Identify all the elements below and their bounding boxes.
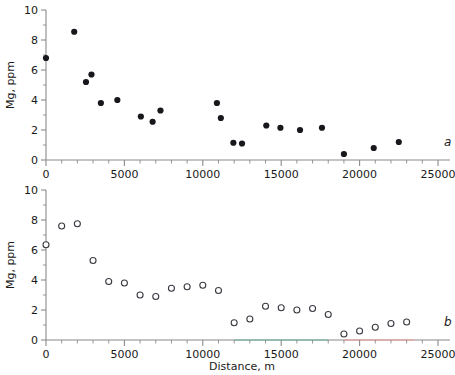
- data-point: [294, 307, 300, 313]
- data-point: [372, 324, 378, 330]
- data-point: [43, 242, 49, 248]
- figure-root: 02468100500010000150002000025000Mg, ppma…: [0, 0, 455, 375]
- panel-label-a: a: [444, 135, 451, 149]
- x-tick-label-b-0: 0: [43, 348, 50, 361]
- data-point: [404, 319, 410, 325]
- data-point: [153, 294, 159, 300]
- data-point: [297, 127, 303, 133]
- data-point: [357, 328, 363, 334]
- y-tick-label-a-10: 10: [24, 4, 38, 17]
- data-point: [168, 285, 174, 291]
- y-tick-label-a-4: 4: [31, 94, 38, 107]
- data-point: [371, 145, 377, 151]
- data-point: [277, 125, 283, 131]
- x-tick-label-b-5000: 5000: [110, 348, 138, 361]
- data-point: [215, 288, 221, 294]
- data-point: [396, 139, 402, 145]
- data-point: [74, 221, 80, 227]
- scatter-plot-figure: 02468100500010000150002000025000Mg, ppma…: [0, 0, 455, 375]
- x-tick-label-a-20000: 20000: [342, 168, 377, 181]
- data-point: [388, 321, 394, 327]
- panel-b: 02468100500010000150002000025000Mg, ppmb: [4, 184, 455, 361]
- x-tick-label-a-5000: 5000: [110, 168, 138, 181]
- data-point: [247, 316, 253, 322]
- y-tick-label-b-10: 10: [24, 184, 38, 197]
- data-point: [114, 97, 120, 103]
- data-point: [138, 113, 144, 119]
- data-point: [184, 284, 190, 290]
- x-tick-label-b-20000: 20000: [342, 348, 377, 361]
- data-point: [239, 140, 245, 146]
- y-tick-label-b-6: 6: [31, 244, 38, 257]
- x-tick-label-b-25000: 25000: [421, 348, 455, 361]
- x-tick-label-a-15000: 15000: [264, 168, 299, 181]
- x-axis-title: Distance, m: [209, 360, 275, 373]
- panel-a: 02468100500010000150002000025000Mg, ppma: [4, 4, 455, 181]
- data-point: [231, 320, 237, 326]
- x-tick-label-a-10000: 10000: [185, 168, 220, 181]
- data-point: [137, 292, 143, 298]
- data-point: [319, 125, 325, 131]
- data-point: [43, 55, 49, 61]
- y-axis-title-a: Mg, ppm: [4, 61, 17, 109]
- y-tick-label-b-4: 4: [31, 274, 38, 287]
- x-tick-label-a-25000: 25000: [421, 168, 455, 181]
- data-point: [88, 71, 94, 77]
- data-point: [214, 100, 220, 106]
- y-tick-label-b-2: 2: [31, 304, 38, 317]
- data-point: [71, 29, 77, 35]
- data-point: [157, 107, 163, 113]
- data-point: [341, 331, 347, 337]
- y-axis-title-b: Mg, ppm: [4, 241, 17, 289]
- y-tick-label-a-0: 0: [31, 154, 38, 167]
- data-point: [98, 100, 104, 106]
- y-tick-label-a-6: 6: [31, 64, 38, 77]
- data-point: [59, 223, 65, 229]
- data-series-b: [43, 221, 410, 337]
- data-point: [230, 140, 236, 146]
- y-tick-label-b-8: 8: [31, 214, 38, 227]
- data-point: [150, 119, 156, 125]
- y-tick-label-a-2: 2: [31, 124, 38, 137]
- data-point: [325, 312, 331, 318]
- x-tick-label-a-0: 0: [43, 168, 50, 181]
- data-point: [263, 303, 269, 309]
- data-point: [310, 306, 316, 312]
- y-tick-label-a-8: 8: [31, 34, 38, 47]
- data-point: [218, 115, 224, 121]
- data-point: [106, 279, 112, 285]
- data-series-a: [43, 29, 402, 157]
- data-point: [341, 151, 347, 157]
- y-tick-label-b-0: 0: [31, 334, 38, 347]
- data-point: [200, 282, 206, 288]
- data-point: [83, 79, 89, 85]
- data-point: [121, 280, 127, 286]
- data-point: [90, 258, 96, 264]
- data-point: [263, 122, 269, 128]
- data-point: [278, 305, 284, 311]
- panel-label-b: b: [444, 315, 452, 329]
